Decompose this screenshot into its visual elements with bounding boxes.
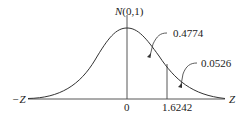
pointer-tail-area [181,63,197,85]
normal-distribution-diagram: N(0,1) 0.4774 0.0526 −Z Z 0 1.6242 [0,0,246,118]
pointer-center-area [150,33,167,56]
center-area-label: 0.4774 [173,27,204,39]
arrowhead-icon [147,53,151,58]
distribution-title: N(0,1) [114,5,144,18]
tick-zero-label: 0 [124,101,130,113]
tick-z-critical-label: 1.6242 [162,101,192,113]
arrowhead-icon [178,83,182,88]
right-axis-label: Z [229,93,236,105]
tail-area-label: 0.0526 [201,57,232,69]
left-axis-label: −Z [12,93,26,105]
